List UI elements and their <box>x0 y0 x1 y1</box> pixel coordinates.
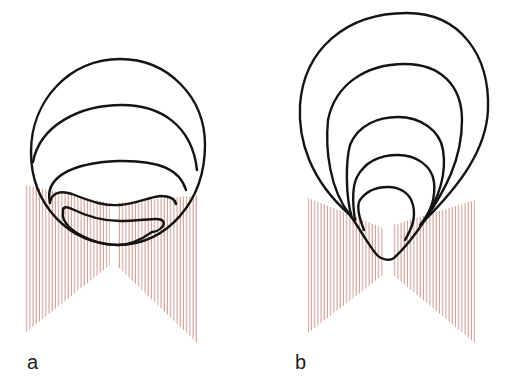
panel-b: b <box>295 13 488 373</box>
figure: a b <box>0 0 507 389</box>
hatch-wedge-right <box>118 195 197 343</box>
hatch-wedge-right <box>393 200 475 343</box>
hatch-wedge-left <box>308 198 383 333</box>
panel-a: a <box>25 59 205 373</box>
panel-label-b: b <box>295 351 306 373</box>
panel-label-a: a <box>27 351 39 373</box>
contour-b-4 <box>353 155 434 225</box>
